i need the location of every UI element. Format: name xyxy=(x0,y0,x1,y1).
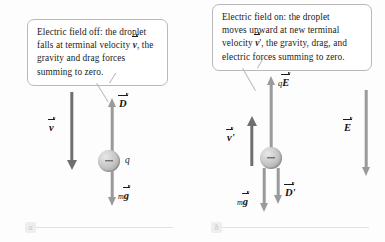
panel-a-droplet-charge-label: q xyxy=(125,155,130,165)
panel-b-callout-line-2: moves upward at new terminal xyxy=(222,24,363,37)
panel-b-vector-electric-force xyxy=(265,76,277,148)
panel-a-label-drag-symbol: D xyxy=(119,98,127,109)
panel-b-label-drag-prime-vec: D xyxy=(285,187,293,198)
panel-b-callout-line-3-text: velocity xyxy=(222,38,255,48)
panel-b-label-electric-force-vec: E xyxy=(282,77,289,88)
panel-a-callout-line-3: gravity and drag forces xyxy=(37,52,159,65)
panel-a-callout-line-4: summing to zero. xyxy=(37,66,159,79)
millikan-oil-drop-figure: Electric field off: the droplet falls at… xyxy=(0,0,385,242)
panel-b-callout: Electric field on: the droplet moves upw… xyxy=(212,4,372,71)
panel-a-droplet xyxy=(98,150,120,172)
panel-b-label-gravity-vec: g xyxy=(243,196,248,207)
panel-a-badge: a xyxy=(25,222,36,233)
panel-b-label-electric-field-vec: E xyxy=(344,122,351,133)
panel-b-rule xyxy=(211,227,369,228)
panel-b-droplet xyxy=(260,147,282,169)
panel-a-callout-line-2-text: falls at terminal velocity xyxy=(37,40,133,50)
panel-a-vector-gravity xyxy=(106,170,118,206)
panel-b-label-drag-prime: D' xyxy=(285,187,296,198)
panel-a-label-gravity: mg xyxy=(118,190,129,201)
panel-b-label-velocity-prime-mark: ' xyxy=(232,132,235,143)
panel-a-label-velocity: v xyxy=(49,122,54,133)
panel-a-callout-line-2: falls at terminal velocity v, the xyxy=(37,39,159,52)
panel-a-callout-vector-v-symbol: v xyxy=(133,40,137,50)
panel-b-callout-line-3-tail: , the gravity, drag, and xyxy=(261,38,347,48)
panel-b-label-electric-field-symbol: E xyxy=(344,122,351,133)
panel-b-label-gravity-symbol: g xyxy=(243,196,248,207)
panel-b-label-drag-prime-mark: ' xyxy=(293,187,296,198)
panel-b-label-electric-field: E xyxy=(344,122,351,133)
panel-b-label-velocity-prime-vec: v xyxy=(227,132,232,143)
panel-a-droplet-minus-sign xyxy=(105,160,113,161)
panel-a-label-drag-vec: D xyxy=(119,98,127,109)
panel-a-label-gravity-symbol: g xyxy=(124,190,129,201)
panel-b-label-drag-prime-symbol: D xyxy=(285,187,293,198)
panel-b-callout-vector-v-symbol: v xyxy=(255,38,259,48)
panel-a-label-drag: D xyxy=(119,98,127,109)
panel-b-label-velocity-prime-symbol: v xyxy=(227,132,232,143)
panel-b-label-electric-force-symbol: E xyxy=(282,77,289,88)
panel-a-callout: Electric field off: the droplet falls at… xyxy=(27,19,168,86)
panel-a-label-velocity-symbol: v xyxy=(49,122,54,133)
panel-b-vector-gravity xyxy=(258,168,270,212)
panel-a-callout-vector-v: v xyxy=(133,39,137,52)
panel-b-callout-tail-left xyxy=(242,68,256,91)
panel-b-vector-drag-prime xyxy=(272,168,284,204)
panel-b-vector-electric-field xyxy=(360,90,372,176)
panel-a-callout-line-1: Electric field off: the droplet xyxy=(37,26,159,39)
panel-a-label-gravity-vec: g xyxy=(124,190,129,201)
panel-a-vector-drag xyxy=(106,98,118,154)
panel-a-callout-line-2-tail: , the xyxy=(137,40,154,50)
panel-b-label-electric-force: qE xyxy=(278,77,289,88)
panel-b-callout-line-1: Electric field on: the droplet xyxy=(222,11,363,24)
panel-b-label-gravity: mg xyxy=(237,196,248,207)
panel-b-callout-vector-v: v xyxy=(255,37,259,50)
panel-a-rule xyxy=(25,227,173,228)
panel-a-label-velocity-vec: v xyxy=(49,122,54,133)
panel-b-badge: b xyxy=(211,222,222,233)
panel-b-callout-line-3: velocity v', the gravity, drag, and xyxy=(222,37,363,50)
panel-a-vector-velocity xyxy=(66,92,78,170)
panel-b-vector-velocity-prime xyxy=(246,116,258,166)
panel-b-label-velocity-prime: v' xyxy=(227,132,235,143)
panel-b-droplet-minus-sign xyxy=(267,157,275,158)
panel-b-callout-line-4: electric forces summing to zero. xyxy=(222,51,363,64)
